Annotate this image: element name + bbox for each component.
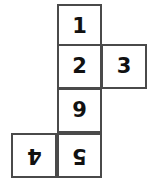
net-cell-label-5: 5	[72, 145, 87, 166]
net-cell-label-4: 4	[27, 145, 42, 166]
net-cell-label-2: 2	[72, 56, 87, 77]
net-cell-label-1: 1	[72, 16, 87, 37]
net-cell-4: 4	[11, 133, 57, 178]
net-cell-2: 2	[57, 44, 102, 89]
net-cell-5: 5	[57, 133, 102, 178]
net-cell-label-9: 9	[72, 100, 87, 121]
net-cell-1: 1	[57, 4, 102, 49]
net-cell-3: 3	[101, 44, 147, 89]
net-cell-9: 9	[57, 88, 102, 133]
net-cell-label-3: 3	[117, 56, 132, 77]
cube-net-diagram: 1 2 3 9 4 5	[0, 0, 154, 183]
